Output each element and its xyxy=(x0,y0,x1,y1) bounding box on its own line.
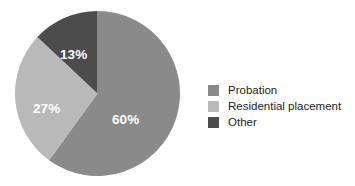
chart-legend: Probation Residential placement Other xyxy=(208,83,353,131)
legend-swatch-icon-residential-placement xyxy=(208,101,219,112)
pie-slices xyxy=(15,11,180,176)
legend-item-probation[interactable]: Probation xyxy=(208,83,353,99)
pie-slice-label-other: 13% xyxy=(60,48,87,62)
pie-chart-figure: 60% 27% 13% Probation Residential placem… xyxy=(0,0,355,186)
legend-swatch-icon-other xyxy=(208,117,219,128)
pie-slice-label-residential-placement: 27% xyxy=(33,102,60,116)
legend-label-residential-placement: Residential placement xyxy=(228,101,341,113)
pie-slice-label-probation: 60% xyxy=(112,113,139,127)
pie-chart-graphic: 60% 27% 13% xyxy=(15,11,180,176)
pie-svg xyxy=(15,11,180,176)
legend-item-residential-placement[interactable]: Residential placement xyxy=(208,99,353,115)
legend-label-other: Other xyxy=(228,117,257,129)
legend-item-other[interactable]: Other xyxy=(208,115,353,131)
legend-swatch-icon-probation xyxy=(208,85,219,96)
legend-label-probation: Probation xyxy=(228,85,277,97)
